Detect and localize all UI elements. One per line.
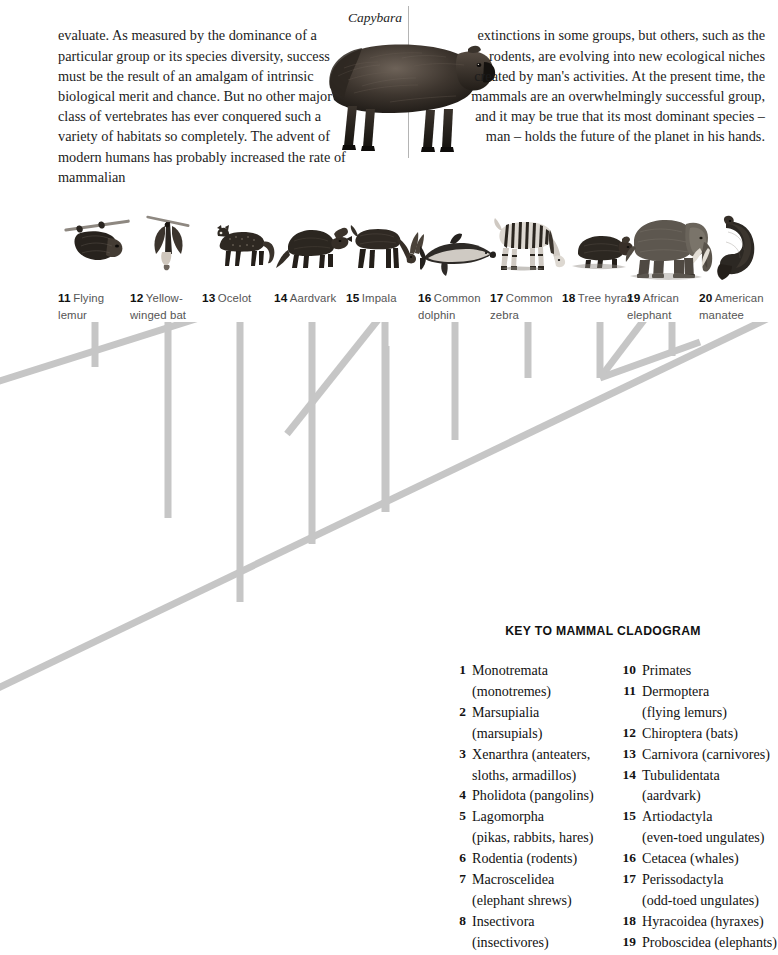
- animal-name-15: Impala: [362, 292, 397, 304]
- article-intro-block: evaluate. As measured by the dominance o…: [0, 0, 773, 175]
- key-entry-5: 5Lagomorpha(pikas, rabbits, hares): [448, 806, 618, 848]
- animal-number-20: 20: [699, 291, 712, 305]
- key-entry-4: 4Pholidota (pangolins): [448, 785, 618, 806]
- animal-label-19: 19African elephant: [627, 290, 701, 323]
- key-number-16: 16: [618, 848, 636, 869]
- animal-figure-common-zebra: [492, 208, 564, 288]
- key-column-left: 1Monotremata(monotremes) 2Marsupialia(ma…: [448, 660, 618, 953]
- animal-figure-ocelot: [204, 208, 276, 288]
- key-number-18: 18: [618, 911, 636, 932]
- key-entry-3: 3Xenarthra (anteaters,sloths, armadillos…: [448, 744, 618, 786]
- key-sub-2: (marsupials): [472, 723, 618, 744]
- key-name-8: Insectivora: [472, 911, 618, 932]
- key-name-5: Lagomorpha: [472, 806, 618, 827]
- key-name-18: Hyracoidea (hyraxes): [642, 911, 778, 932]
- animal-label-13: 13Ocelot: [202, 290, 276, 307]
- key-name-14: Tubulidentata: [642, 765, 778, 786]
- key-columns: 1Monotremata(monotremes) 2Marsupialia(ma…: [430, 660, 773, 955]
- key-entry-7: 7Macroscelidea(elephant shrews): [448, 869, 618, 911]
- key-sub-3: sloths, armadillos): [472, 765, 618, 786]
- key-number-10: 10: [618, 660, 636, 681]
- animal-number-17: 17: [490, 291, 503, 305]
- key-name-19: Proboscidea (elephants): [642, 932, 778, 953]
- key-number-6: 6: [448, 848, 466, 869]
- animal-number-14: 14: [274, 291, 287, 305]
- animal-label-18: 18Tree hyrax: [562, 290, 636, 307]
- key-sub-8: (insectivores): [472, 932, 618, 953]
- key-number-4: 4: [448, 785, 466, 806]
- key-entry-1: 1Monotremata(monotremes): [448, 660, 618, 702]
- key-sub-15: (even-toed ungulates): [642, 827, 778, 848]
- key-entry-14: 14Tubulidentata(aardvark): [618, 765, 778, 807]
- key-number-7: 7: [448, 869, 466, 890]
- key-name-7: Macroscelidea: [472, 869, 618, 890]
- clade-branch-upper-left: [0, 322, 205, 384]
- animal-number-19: 19: [627, 291, 640, 305]
- key-number-11: 11: [618, 681, 636, 702]
- key-name-10: Primates: [642, 660, 778, 681]
- animal-figure-aardvark: [276, 208, 348, 288]
- key-entry-18: 18Hyracoidea (hyraxes): [618, 911, 778, 932]
- animal-label-14: 14Aardvark: [274, 290, 348, 307]
- key-to-mammal-cladogram: KEY TO MAMMAL CLADOGRAM 1Monotremata(mon…: [430, 624, 773, 955]
- animal-label-11: 11Flying lemur: [58, 290, 132, 323]
- key-sub-17: (odd-toed ungulates): [642, 890, 778, 911]
- animal-number-15: 15: [346, 291, 359, 305]
- key-column-right: 10Primates 11Dermoptera(flying lemurs) 1…: [618, 660, 778, 953]
- key-entry-17: 17Perissodactyla(odd-toed ungulates): [618, 869, 778, 911]
- animal-figure-common-dolphin: [420, 208, 492, 288]
- key-name-15: Artiodactyla: [642, 806, 778, 827]
- animal-figure-flying-lemur: [60, 208, 132, 288]
- animal-name-14: Aardvark: [290, 292, 336, 304]
- key-number-2: 2: [448, 702, 466, 723]
- key-number-5: 5: [448, 806, 466, 827]
- key-sub-1: (monotremes): [472, 681, 618, 702]
- key-entry-16: 16Cetacea (whales): [618, 848, 778, 869]
- key-entry-19: 19Proboscidea (elephants): [618, 932, 778, 953]
- clade-branch-right-group: [287, 322, 381, 434]
- key-number-3: 3: [448, 744, 466, 765]
- key-name-3: Xenarthra (anteaters,: [472, 744, 618, 765]
- key-number-14: 14: [618, 765, 636, 786]
- key-title: KEY TO MAMMAL CLADOGRAM: [438, 624, 768, 638]
- animal-illustration-strip: [0, 206, 773, 288]
- key-entry-2: 2Marsupialia(marsupials): [448, 702, 618, 744]
- animal-name-13: Ocelot: [218, 292, 252, 304]
- key-number-15: 15: [618, 806, 636, 827]
- key-sub-14: (aardvark): [642, 785, 778, 806]
- key-number-8: 8: [448, 911, 466, 932]
- key-name-17: Perissodactyla: [642, 869, 778, 890]
- animal-label-16: 16Common dolphin: [418, 290, 492, 323]
- animal-figure-american-manatee: [706, 208, 778, 288]
- key-entry-10: 10Primates: [618, 660, 778, 681]
- key-entry-8: 8Insectivora(insectivores): [448, 911, 618, 953]
- animal-figure-impala: [348, 208, 420, 288]
- key-number-12: 12: [618, 723, 636, 744]
- animal-label-20: 20American manatee: [699, 290, 773, 323]
- key-name-6: Rodentia (rodents): [472, 848, 618, 869]
- key-name-12: Chiroptera (bats): [642, 723, 778, 744]
- animal-number-11: 11: [58, 291, 71, 305]
- key-name-16: Cetacea (whales): [642, 848, 778, 869]
- article-left-column: evaluate. As measured by the dominance o…: [58, 25, 348, 187]
- animal-figure-african-elephant: [624, 208, 696, 288]
- key-name-13: Carnivora (carnivores): [642, 744, 778, 765]
- key-sub-5: (pikas, rabbits, hares): [472, 827, 618, 848]
- animal-number-16: 16: [418, 291, 431, 305]
- key-entry-12: 12Chiroptera (bats): [618, 723, 778, 744]
- key-sub-11: (flying lemurs): [642, 702, 778, 723]
- animal-figure-yellow-winged-bat: [132, 208, 204, 288]
- animal-label-15: 15Impala: [346, 290, 420, 307]
- key-entry-6: 6Rodentia (rodents): [448, 848, 618, 869]
- animal-label-17: 17Common zebra: [490, 290, 564, 323]
- animal-number-18: 18: [562, 291, 575, 305]
- article-right-column: extinctions in some groups, but others, …: [455, 25, 765, 146]
- key-sub-7: (elephant shrews): [472, 890, 618, 911]
- key-number-19: 19: [618, 932, 636, 953]
- animal-number-12: 12: [130, 291, 143, 305]
- key-number-1: 1: [448, 660, 466, 681]
- key-number-17: 17: [618, 869, 636, 890]
- key-name-4: Pholidota (pangolins): [472, 785, 618, 806]
- key-entry-11: 11Dermoptera(flying lemurs): [618, 681, 778, 723]
- key-entry-13: 13Carnivora (carnivores): [618, 744, 778, 765]
